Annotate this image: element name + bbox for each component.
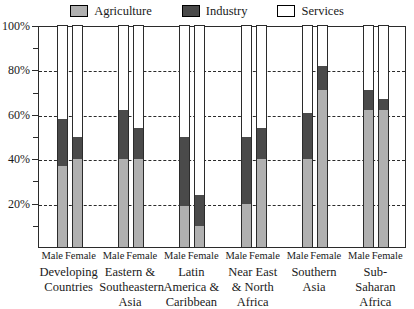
legend-swatch-agriculture-icon bbox=[70, 5, 88, 17]
bar-segment-industry bbox=[303, 113, 312, 160]
x-region-label: Sub-SaharanAfrica bbox=[345, 265, 406, 309]
x-group-4: MaleFemaleNear East& NorthAfrica bbox=[222, 250, 283, 309]
x-region-label-line: Sub- bbox=[345, 265, 406, 280]
x-sex-labels: MaleFemale bbox=[38, 250, 99, 262]
bar-segment-industry bbox=[257, 128, 266, 159]
bar-female bbox=[317, 25, 328, 247]
bar-segment-industry bbox=[134, 128, 143, 159]
bar-male bbox=[302, 25, 313, 247]
x-label-male: Male bbox=[287, 250, 309, 262]
bar-segment-industry bbox=[58, 119, 67, 166]
bar-segment-industry bbox=[364, 90, 373, 110]
y-tick-label-40: 40% bbox=[8, 152, 30, 167]
bar-segment-industry bbox=[242, 137, 251, 204]
bar-segment-industry bbox=[73, 137, 82, 159]
bar-segment-agriculture bbox=[242, 204, 251, 247]
legend-label-agriculture: Agriculture bbox=[94, 5, 152, 18]
legend-swatch-services-icon bbox=[277, 5, 295, 17]
x-sex-labels: MaleFemale bbox=[222, 250, 283, 262]
x-group-2: MaleFemaleEastern &SoutheasternAsia bbox=[99, 250, 160, 309]
bar-segment-agriculture bbox=[134, 159, 143, 247]
bar-segment-industry bbox=[379, 99, 388, 110]
y-tick-label-20: 20% bbox=[8, 196, 30, 211]
bar-segment-agriculture bbox=[379, 110, 388, 247]
bar-segment-agriculture bbox=[364, 110, 373, 247]
bar-segment-agriculture bbox=[73, 159, 82, 247]
bar-male bbox=[363, 25, 374, 247]
x-region-label: SouthernAsia bbox=[283, 265, 344, 295]
x-region-label: Eastern &SoutheasternAsia bbox=[99, 265, 160, 309]
x-region-label: LatinAmerica &Caribbean bbox=[161, 265, 222, 309]
bar-segment-agriculture bbox=[119, 159, 128, 247]
y-tick-label-60: 60% bbox=[8, 107, 30, 122]
x-region-label: DevelopingCountries bbox=[38, 265, 99, 295]
legend-label-services: Services bbox=[301, 5, 343, 18]
stacked-bar-chart: Agriculture Industry Services 100%80%60%… bbox=[0, 0, 414, 309]
y-tick-label-100: 100% bbox=[2, 19, 30, 34]
bar-female bbox=[194, 25, 205, 247]
bar-segment-industry bbox=[180, 137, 189, 206]
bar-female bbox=[256, 25, 267, 247]
x-label-female: Female bbox=[65, 250, 96, 262]
bar-segment-agriculture bbox=[180, 206, 189, 247]
x-sex-labels: MaleFemale bbox=[99, 250, 160, 262]
chart-legend: Agriculture Industry Services bbox=[0, 2, 414, 20]
bar-male bbox=[241, 25, 252, 247]
x-sex-labels: MaleFemale bbox=[161, 250, 222, 262]
legend-item-agriculture: Agriculture bbox=[70, 5, 152, 18]
bar-segment-agriculture bbox=[257, 159, 266, 247]
x-label-female: Female bbox=[310, 250, 341, 262]
x-label-female: Female bbox=[126, 250, 157, 262]
x-group-1: MaleFemaleDevelopingCountries bbox=[38, 250, 99, 295]
x-group-6: MaleFemaleSub-SaharanAfrica bbox=[345, 250, 406, 309]
x-label-male: Male bbox=[225, 250, 247, 262]
x-sex-labels: MaleFemale bbox=[283, 250, 344, 262]
bar-male bbox=[179, 25, 190, 247]
x-region-label-line: Countries bbox=[38, 280, 99, 295]
y-tick-label-80: 80% bbox=[8, 63, 30, 78]
bar-female bbox=[72, 25, 83, 247]
x-region-label-line: Southeastern bbox=[99, 280, 160, 295]
x-region-label-line: & North bbox=[222, 280, 283, 295]
bar-segment-industry bbox=[318, 66, 327, 90]
bar-segment-agriculture bbox=[303, 159, 312, 247]
bars-layer bbox=[39, 27, 405, 247]
x-group-5: MaleFemaleSouthernAsia bbox=[283, 250, 344, 295]
x-label-male: Male bbox=[164, 250, 186, 262]
bar-female bbox=[378, 25, 389, 247]
x-region-label-line: Caribbean bbox=[161, 295, 222, 309]
y-axis: 100%80%60%40%20% bbox=[0, 26, 38, 248]
legend-item-services: Services bbox=[277, 5, 343, 18]
x-region-label-line: Africa bbox=[222, 295, 283, 309]
bar-segment-agriculture bbox=[318, 90, 327, 247]
legend-label-industry: Industry bbox=[206, 5, 248, 18]
x-sex-labels: MaleFemale bbox=[345, 250, 406, 262]
x-label-female: Female bbox=[372, 250, 403, 262]
bar-segment-agriculture bbox=[58, 166, 67, 247]
x-label-male: Male bbox=[41, 250, 63, 262]
x-region-label-line: Near East bbox=[222, 265, 283, 280]
bar-segment-industry bbox=[119, 110, 128, 159]
legend-swatch-industry-icon bbox=[182, 5, 200, 17]
bar-segment-industry bbox=[195, 195, 204, 226]
bar-female bbox=[133, 25, 144, 247]
x-label-male: Male bbox=[348, 250, 370, 262]
x-region-label-line: Africa bbox=[345, 295, 406, 309]
x-group-3: MaleFemaleLatinAmerica &Caribbean bbox=[161, 250, 222, 309]
x-region-label-line: Asia bbox=[283, 280, 344, 295]
bar-male bbox=[118, 25, 129, 247]
x-region-label-line: Developing bbox=[38, 265, 99, 280]
x-label-female: Female bbox=[249, 250, 280, 262]
bar-segment-agriculture bbox=[195, 226, 204, 247]
legend-item-industry: Industry bbox=[182, 5, 248, 18]
x-region-label-line: Asia bbox=[99, 295, 160, 309]
x-region-label-line: Saharan bbox=[345, 280, 406, 295]
x-region-label-line: Latin bbox=[161, 265, 222, 280]
x-label-female: Female bbox=[188, 250, 219, 262]
x-region-label-line: Southern bbox=[283, 265, 344, 280]
x-region-label-line: Eastern & bbox=[99, 265, 160, 280]
x-label-male: Male bbox=[103, 250, 125, 262]
plot-area bbox=[38, 26, 406, 248]
x-region-label: Near East& NorthAfrica bbox=[222, 265, 283, 309]
bar-male bbox=[57, 25, 68, 247]
